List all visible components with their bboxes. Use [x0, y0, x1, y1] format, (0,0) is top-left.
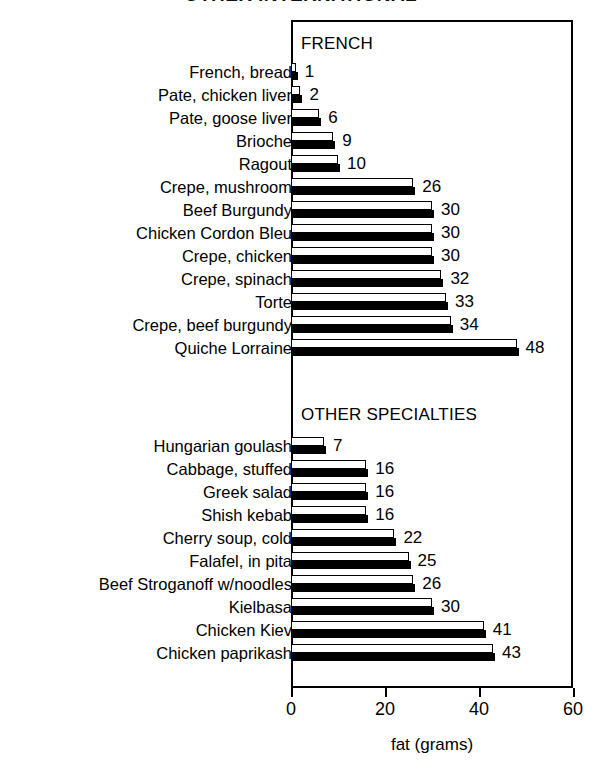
- bar-row: Crepe, spinach32: [0, 269, 601, 292]
- bar-value-label: 30: [441, 597, 460, 617]
- bar-value-label: 1: [305, 62, 314, 82]
- bar-value-label: 32: [450, 269, 469, 289]
- bar-value-label: 22: [403, 528, 422, 548]
- bar-category-label: Chicken Cordon Bleu: [136, 224, 292, 243]
- bar-category-label: French, bread: [189, 63, 292, 82]
- x-axis-tick: [573, 688, 575, 697]
- bar-shadow: [293, 141, 335, 149]
- bar-row: Beef Stroganoff w/noodles26: [0, 574, 601, 597]
- chart-title: OTHER INTERNATIONAL: [0, 0, 601, 6]
- bar-shadow: [293, 302, 448, 310]
- bar-row: Falafel, in pita25: [0, 551, 601, 574]
- bar-shadow: [293, 210, 434, 218]
- bar-row: French, bread1: [0, 62, 601, 85]
- bar-face: [291, 63, 296, 72]
- bar-value-label: 48: [526, 338, 545, 358]
- bar-category-label: Brioche: [236, 132, 292, 151]
- bar-face: [291, 247, 432, 256]
- x-axis-tick-label: 60: [563, 699, 583, 720]
- bar-shadow: [293, 325, 453, 333]
- bar-shadow: [293, 118, 321, 126]
- bar-face: [291, 529, 394, 538]
- bar-category-label: Pate, goose liver: [169, 109, 292, 128]
- bar-value-label: 43: [502, 643, 521, 663]
- bar-face: [291, 506, 366, 515]
- bar-row: Chicken paprikash43: [0, 643, 601, 666]
- x-axis-title: fat (grams): [291, 735, 573, 755]
- bar-value-label: 6: [328, 108, 337, 128]
- bar-shadow: [293, 72, 298, 80]
- bar-shadow: [293, 446, 326, 454]
- bar-shadow: [293, 561, 411, 569]
- x-axis-tick: [291, 688, 293, 697]
- bar-category-label: Ragout: [239, 155, 292, 174]
- bar-face: [291, 224, 432, 233]
- bar-row: Kielbasa30: [0, 597, 601, 620]
- bar-category-label: Crepe, spinach: [181, 270, 292, 289]
- bar-shadow: [293, 515, 368, 523]
- bar-row: Pate, goose liver6: [0, 108, 601, 131]
- bar-category-label: Crepe, beef burgundy: [132, 316, 292, 335]
- x-axis: 0204060: [291, 688, 573, 689]
- bar-value-label: 10: [347, 154, 366, 174]
- bar-face: [291, 270, 441, 279]
- bar-shadow: [293, 653, 495, 661]
- bar-row: Cherry soup, cold22: [0, 528, 601, 551]
- bar-category-label: Torte: [255, 293, 292, 312]
- x-axis-tick-label: 0: [286, 699, 296, 720]
- bar-face: [291, 552, 409, 561]
- bar-shadow: [293, 469, 368, 477]
- bar-row: Ragout10: [0, 154, 601, 177]
- bar-value-label: 9: [342, 131, 351, 151]
- bar-shadow: [293, 584, 415, 592]
- bar-face: [291, 316, 451, 325]
- bar-face: [291, 644, 493, 653]
- bar-row: Torte33: [0, 292, 601, 315]
- bar-value-label: 33: [455, 292, 474, 312]
- bar-row: Pate, chicken liver2: [0, 85, 601, 108]
- bar-row: Beef Burgundy30: [0, 200, 601, 223]
- bar-category-label: Cherry soup, cold: [163, 529, 292, 548]
- bar-face: [291, 575, 413, 584]
- bar-row: Crepe, mushroom26: [0, 177, 601, 200]
- bar-value-label: 25: [418, 551, 437, 571]
- bar-value-label: 30: [441, 246, 460, 266]
- bar-shadow: [293, 538, 396, 546]
- bar-face: [291, 293, 446, 302]
- bar-category-label: Quiche Lorraine: [175, 339, 292, 358]
- bar-row: Crepe, chicken30: [0, 246, 601, 269]
- bar-category-label: Crepe, chicken: [182, 247, 292, 266]
- bar-category-label: Hungarian goulash: [153, 437, 292, 456]
- bar-value-label: 26: [422, 177, 441, 197]
- bar-value-label: 2: [309, 85, 318, 105]
- bar-face: [291, 339, 517, 348]
- bar-category-label: Beef Burgundy: [183, 201, 292, 220]
- group-header-other-specialties: OTHER SPECIALTIES: [301, 405, 477, 425]
- bar-shadow: [293, 233, 434, 241]
- bar-shadow: [293, 348, 519, 356]
- group-header-french: FRENCH: [301, 34, 373, 54]
- bar-value-label: 34: [460, 315, 479, 335]
- bar-category-label: Greek salad: [203, 483, 292, 502]
- bar-face: [291, 109, 319, 118]
- bar-category-label: Shish kebab: [201, 506, 292, 525]
- bar-value-label: 41: [493, 620, 512, 640]
- bar-face: [291, 155, 338, 164]
- bar-face: [291, 201, 432, 210]
- bar-value-label: 30: [441, 200, 460, 220]
- bar-category-label: Chicken paprikash: [156, 644, 292, 663]
- x-axis-tick: [479, 688, 481, 697]
- bar-face: [291, 460, 366, 469]
- bar-category-label: Crepe, mushroom: [160, 178, 292, 197]
- bar-value-label: 7: [333, 436, 342, 456]
- bar-shadow: [293, 95, 302, 103]
- bar-value-label: 26: [422, 574, 441, 594]
- bar-value-label: 30: [441, 223, 460, 243]
- bar-category-label: Chicken Kiev: [196, 621, 292, 640]
- bar-face: [291, 86, 300, 95]
- bar-face: [291, 621, 484, 630]
- bar-category-label: Falafel, in pita: [189, 552, 292, 571]
- bar-category-label: Beef Stroganoff w/noodles: [99, 575, 292, 594]
- x-axis-tick-label: 40: [469, 699, 489, 720]
- bar-shadow: [293, 492, 368, 500]
